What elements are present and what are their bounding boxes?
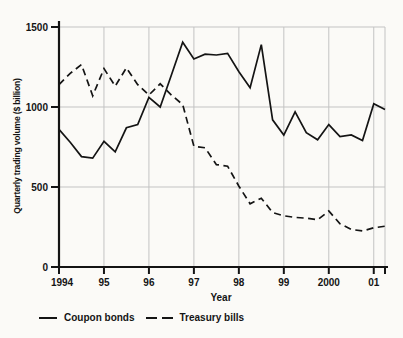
coupon-bonds-line [59,42,385,158]
x-tick-label: 99 [278,277,290,288]
x-tick-label: 95 [98,277,110,288]
legend: Coupon bonds Treasury bills [39,312,244,323]
legend-label-treasury-bills: Treasury bills [180,312,244,323]
x-tick-label: 1994 [51,277,74,288]
solid-line-swatch-icon [39,317,57,319]
x-axis-label: Year [210,292,231,303]
trading-volume-figure: 05001000150019949596979899200001 Quarter… [0,0,403,338]
chart-canvas: 05001000150019949596979899200001 [0,0,403,338]
y-tick-label: 0 [42,262,48,273]
y-tick-label: 500 [31,182,48,193]
dashed-line-swatch-icon [146,317,173,319]
x-tick-label: 97 [188,277,200,288]
treasury-bills-line [59,65,385,231]
y-tick-label: 1000 [26,102,49,113]
x-tick-label: 2000 [318,277,341,288]
y-tick-label: 1500 [26,22,49,33]
x-tick-label: 01 [368,277,380,288]
y-axis-label: Quarterly trading volume ($ billion) [12,78,22,214]
x-tick-label: 96 [143,277,155,288]
legend-label-coupon-bonds: Coupon bonds [64,312,135,323]
x-tick-label: 98 [233,277,245,288]
